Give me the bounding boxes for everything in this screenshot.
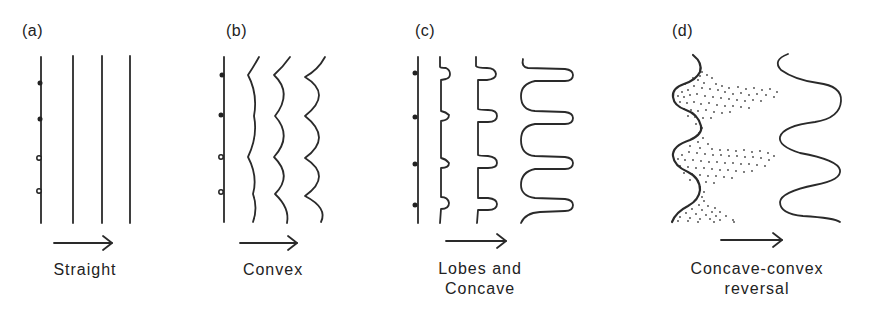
panel-c-drawing xyxy=(413,57,574,248)
arrow-right-icon xyxy=(54,236,112,250)
panel-a-caption: Straight xyxy=(30,260,140,280)
panel-c-caption: Lobes and Concave xyxy=(425,259,535,299)
panel-c-line-2 xyxy=(440,57,450,223)
panel-d-line-1 xyxy=(672,55,701,222)
panel-b-dot-4 xyxy=(219,190,223,194)
panel-d-caption-line-2: reversal xyxy=(672,279,842,299)
panel-d-drawing xyxy=(672,54,841,247)
panel-b-dot-2 xyxy=(219,113,224,118)
panel-b-line-4 xyxy=(305,57,325,222)
panel-a-caption-line-1: Straight xyxy=(30,260,140,280)
panel-a-dot-2 xyxy=(38,117,43,122)
panel-b-caption: Convex xyxy=(218,260,328,280)
panel-a-drawing xyxy=(37,56,130,250)
panel-d-stipple xyxy=(677,71,778,223)
panel-d-caption-line-1: Concave-convex xyxy=(672,259,842,279)
panel-b-drawing xyxy=(219,57,326,250)
panel-b-dot-3 xyxy=(219,155,223,159)
panel-b-line-3 xyxy=(274,57,290,223)
arrow-right-icon xyxy=(240,236,297,250)
panel-a-dot-4 xyxy=(37,189,41,193)
arrow-right-icon xyxy=(446,234,506,248)
panel-c-line-3 xyxy=(476,57,497,223)
panel-d-caption: Concave-convex reversal xyxy=(672,259,842,299)
panel-b-line-2 xyxy=(248,57,259,222)
panel-d-line-2 xyxy=(778,54,841,222)
panel-b-dot-1 xyxy=(220,73,225,78)
panel-c-dot-3 xyxy=(413,162,418,167)
panel-c-dot-4 xyxy=(413,203,418,208)
panel-c-line-4 xyxy=(521,59,573,223)
panel-c-dot-1 xyxy=(413,71,418,76)
panel-c-dot-2 xyxy=(413,115,418,120)
panel-b-caption-line-1: Convex xyxy=(218,260,328,280)
panel-a-dot-3 xyxy=(37,156,41,160)
arrow-right-icon xyxy=(721,233,782,247)
panel-a-dot-1 xyxy=(38,81,43,86)
panel-c-caption-line-1: Lobes and xyxy=(425,259,535,279)
panel-c-caption-line-2: Concave xyxy=(425,279,535,299)
